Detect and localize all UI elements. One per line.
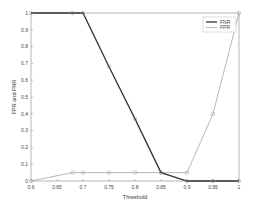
y-tick-label: 0.3 xyxy=(21,127,28,133)
x-tick-label: 0.85 xyxy=(156,184,166,190)
x-tick-label: 0.6 xyxy=(28,184,35,190)
y-tick-label: 0.9 xyxy=(21,27,28,33)
x-tick-label: 0.8 xyxy=(132,184,139,190)
y-tick-label: 0.1 xyxy=(21,161,28,167)
series-fnr xyxy=(31,13,239,181)
x-tick-label: 1 xyxy=(238,184,241,190)
y-tick-label: 1 xyxy=(25,10,28,16)
y-tick-label: 0.8 xyxy=(21,43,28,49)
x-axis-label: Threshold xyxy=(123,194,147,200)
legend-entry: FPR xyxy=(220,24,230,30)
x-tick-label: 0.9 xyxy=(184,184,191,190)
y-tick-label: 0.7 xyxy=(21,60,28,66)
plot-frame xyxy=(31,13,239,181)
x-tick-label: 0.95 xyxy=(208,184,218,190)
legend: FNRFPR xyxy=(203,17,236,32)
y-tick-label: 0.2 xyxy=(21,144,28,150)
series-fpr xyxy=(31,13,239,181)
x-tick-label: 0.7 xyxy=(80,184,87,190)
y-tick-label: 0.6 xyxy=(21,77,28,83)
y-axis-label: FPR and FNR xyxy=(11,80,17,115)
y-tick-label: 0 xyxy=(25,178,28,184)
y-tick-label: 0.4 xyxy=(21,111,28,117)
x-tick-label: 0.75 xyxy=(104,184,114,190)
axes: 0.60.650.70.750.80.850.90.95100.10.20.30… xyxy=(21,10,241,190)
y-tick-label: 0.5 xyxy=(21,94,28,100)
series-lines xyxy=(29,11,241,183)
x-tick-label: 0.65 xyxy=(52,184,62,190)
line-chart: 0.60.650.70.750.80.850.90.95100.10.20.30… xyxy=(0,0,254,208)
